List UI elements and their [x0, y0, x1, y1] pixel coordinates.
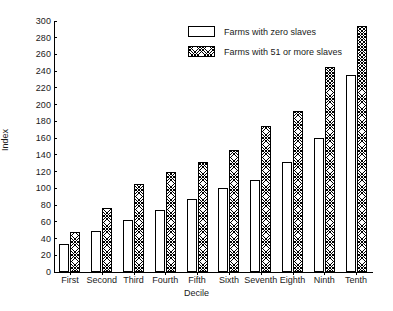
y-axis-tick: 0 [46, 268, 54, 277]
x-axis-tick-label: Sixth [219, 275, 239, 285]
y-axis-tick-label: 200 [36, 100, 54, 109]
bar-chart: 0204060801001201401601802002202402602803… [0, 0, 393, 311]
y-axis-tick-label: 160 [36, 134, 54, 143]
y-axis-tick: 260 [36, 50, 54, 59]
y-axis-tick-mark [54, 272, 57, 273]
y-axis-tick: 200 [36, 100, 54, 109]
y-axis-tick: 300 [36, 17, 54, 26]
y-axis-tick-mark [54, 37, 57, 38]
y-axis-tick-label: 120 [36, 167, 54, 176]
y-axis-tick-label: 180 [36, 117, 54, 126]
y-axis-tick-mark [54, 87, 57, 88]
bar-group [155, 21, 176, 272]
bar-zero-slaves [346, 75, 356, 272]
legend-label: Farms with 51 or more slaves [224, 47, 342, 57]
bar-group [123, 21, 144, 272]
bar-group [91, 21, 112, 272]
y-axis-tick-label: 60 [41, 217, 54, 226]
bar-group [346, 21, 367, 272]
plot-area: 0204060801001201401601802002202402602803… [54, 21, 372, 272]
y-axis-tick: 120 [36, 167, 54, 176]
bar-51-or-more-slaves [325, 67, 335, 272]
y-axis-tick-mark [54, 154, 57, 155]
y-axis-tick: 20 [41, 251, 54, 260]
y-axis-tick-mark [54, 238, 57, 239]
x-axis-tick-label: Fourth [152, 275, 178, 285]
bar-group [282, 21, 303, 272]
y-axis-tick-label: 80 [41, 201, 54, 210]
bar-zero-slaves [250, 180, 260, 272]
y-axis-tick: 280 [36, 33, 54, 42]
open-rectangle-swatch-icon [188, 26, 215, 37]
y-axis-tick-label: 0 [46, 268, 54, 277]
chart-legend: Farms with zero slaves Farms with 51 or … [188, 26, 342, 57]
bar-51-or-more-slaves [134, 184, 144, 272]
bar-zero-slaves [218, 188, 228, 272]
y-axis-tick-label: 140 [36, 150, 54, 159]
bar-zero-slaves [91, 231, 101, 272]
y-axis-tick-label: 300 [36, 17, 54, 26]
y-axis-title: Index [0, 129, 10, 151]
bar-51-or-more-slaves [293, 111, 303, 272]
legend-item-zero-slaves: Farms with zero slaves [188, 26, 342, 37]
bar-group [59, 21, 80, 272]
x-axis-tick-label: Seventh [244, 275, 277, 285]
bar-group [314, 21, 335, 272]
bar-51-or-more-slaves [261, 126, 271, 272]
bar-zero-slaves [314, 138, 324, 272]
y-axis-tick-mark [54, 221, 57, 222]
y-axis-tick-label: 20 [41, 251, 54, 260]
bar-zero-slaves [59, 244, 69, 272]
bar-51-or-more-slaves [229, 150, 239, 272]
y-axis-tick: 240 [36, 67, 54, 76]
hatched-rectangle-swatch-icon [188, 46, 215, 57]
y-axis-tick-label: 220 [36, 83, 54, 92]
y-axis-tick-mark [54, 54, 57, 55]
y-axis-tick-mark [54, 205, 57, 206]
y-axis-tick-mark [54, 121, 57, 122]
y-axis-tick: 140 [36, 150, 54, 159]
x-axis-tick-label: First [61, 275, 79, 285]
bar-zero-slaves [155, 210, 165, 272]
y-axis-tick-mark [54, 71, 57, 72]
y-axis-tick-mark [54, 255, 57, 256]
y-axis-tick-label: 240 [36, 67, 54, 76]
bar-51-or-more-slaves [198, 162, 208, 272]
y-axis-tick: 80 [41, 201, 54, 210]
y-axis-tick-label: 280 [36, 33, 54, 42]
y-axis-tick-label: 100 [36, 184, 54, 193]
y-axis-tick-mark [54, 104, 57, 105]
legend-label: Farms with zero slaves [224, 27, 316, 37]
y-axis-tick: 40 [41, 234, 54, 243]
bar-group [250, 21, 271, 272]
y-axis-tick: 220 [36, 83, 54, 92]
y-axis-tick-mark [54, 171, 57, 172]
bar-51-or-more-slaves [70, 232, 80, 272]
bar-zero-slaves [123, 220, 133, 272]
y-axis-tick: 180 [36, 117, 54, 126]
x-axis-tick-label: Fifth [188, 275, 206, 285]
y-axis-tick: 160 [36, 134, 54, 143]
x-axis-tick-label: Eighth [280, 275, 306, 285]
legend-item-51-or-more-slaves: Farms with 51 or more slaves [188, 46, 342, 57]
bar-51-or-more-slaves [166, 172, 176, 272]
bar-group [218, 21, 239, 272]
x-axis-tick-label: Ninth [314, 275, 335, 285]
y-axis-tick-mark [54, 21, 57, 22]
y-axis-tick-mark [54, 138, 57, 139]
x-axis-tick-label: Tenth [345, 275, 367, 285]
bar-zero-slaves [187, 199, 197, 272]
y-axis-tick-label: 260 [36, 50, 54, 59]
y-axis-tick: 100 [36, 184, 54, 193]
y-axis-tick: 60 [41, 217, 54, 226]
bar-group [187, 21, 208, 272]
bar-51-or-more-slaves [357, 26, 367, 272]
x-axis-title: Decile [0, 288, 393, 298]
y-axis-tick-mark [54, 188, 57, 189]
x-axis-tick-label: Second [86, 275, 117, 285]
bar-zero-slaves [282, 162, 292, 272]
x-axis-tick-label: Third [123, 275, 144, 285]
y-axis-tick-label: 40 [41, 234, 54, 243]
bar-51-or-more-slaves [102, 208, 112, 272]
